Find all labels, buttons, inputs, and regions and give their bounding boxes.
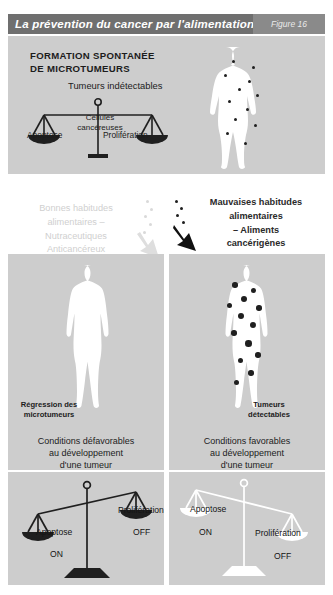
conditions-unfavorable-line2: au développement: [16, 448, 156, 460]
conditions-unfavorable-text: Conditions défavorables au développement…: [16, 436, 156, 472]
good-habits-line3: Nutraceutiques: [16, 230, 136, 244]
bad-habits-line2: alimentaires: [196, 210, 316, 224]
scale-right-apoptose-label: Apoptose: [190, 504, 226, 514]
figure-number-tag: Figure 16: [253, 14, 325, 34]
bad-habits-line1: Mauvaises habitudes: [196, 196, 316, 210]
conditions-favorable-line3: d'une tumeur: [177, 460, 317, 472]
top-subtitle: Tumeurs indétectables: [68, 80, 163, 91]
detectable-caption-line1: Tumeurs: [240, 400, 298, 410]
figure-page: La prévention du cancer par l'alimentati…: [0, 0, 333, 595]
scale-left-off-label: OFF: [133, 527, 150, 537]
scale-left-on-label: ON: [50, 549, 63, 559]
page-title: La prévention du cancer par l'alimentati…: [15, 18, 254, 30]
good-habits-text: Bonnes habitudes alimentaires – Nutraceu…: [16, 202, 136, 257]
scale-right-on-label: ON: [199, 527, 212, 537]
balance-right-label-top: Prolifération: [103, 130, 148, 140]
conditions-unfavorable-line1: Conditions défavorables: [16, 436, 156, 448]
conditions-favorable-line1: Conditions favorables: [177, 436, 317, 448]
conditions-unfavorable-line3: d'une tumeur: [16, 460, 156, 472]
scale-left-proliferation-label: Prolifération: [118, 505, 164, 515]
scale-left-apoptose-label: Apoptose: [36, 527, 72, 537]
balance-left-label-top: Apoptose: [27, 130, 62, 140]
conditions-favorable-line2: au développement: [177, 448, 317, 460]
detectable-caption: Tumeurs détectables: [240, 400, 298, 420]
conditions-favorable-text: Conditions favorables au développement d…: [177, 436, 317, 472]
good-habits-line2: alimentaires –: [16, 216, 136, 230]
bad-habits-line4: cancérigènes: [196, 237, 316, 251]
detectable-caption-line2: détectables: [240, 410, 298, 420]
balance-center-line1: Cellules: [72, 113, 128, 123]
figure-number-label: Figure 16: [271, 19, 307, 29]
good-habits-line1: Bonnes habitudes: [16, 202, 136, 216]
scale-right-proliferation-label: Prolifération: [255, 528, 301, 538]
regression-caption-line2: microtumeurs: [14, 410, 84, 420]
human-silhouette-top: [192, 44, 288, 170]
figure-header-bar: La prévention du cancer par l'alimentati…: [8, 14, 325, 34]
bad-habits-text: Mauvaises habitudes alimentaires – Alime…: [196, 196, 316, 251]
regression-caption: Régression des microtumeurs: [14, 400, 84, 420]
scale-right-off-label: OFF: [274, 551, 291, 561]
top-heading-line2: DE MICROTUMEURS: [30, 63, 155, 76]
top-heading-line1: FORMATION SPONTANÉE: [30, 50, 155, 63]
top-heading: FORMATION SPONTANÉE DE MICROTUMEURS: [30, 50, 155, 76]
regression-caption-line1: Régression des: [14, 400, 84, 410]
bad-habits-line3: – Aliments: [196, 224, 316, 238]
down-arrow-icon-dark: [172, 224, 202, 252]
